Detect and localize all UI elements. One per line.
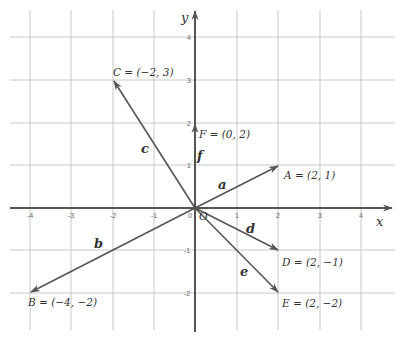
svg-text:-1: -1 [151, 212, 157, 219]
point-A-label: A = (2, 1) [283, 169, 335, 181]
svg-text:2: 2 [187, 120, 191, 127]
coordinate-plane: x y -4 -3 -2 -1 0 1 2 3 4 4 3 2 1 -1 -2 … [0, 0, 406, 343]
svg-text:3: 3 [187, 77, 191, 84]
point-C-label: C = (−2, 3) [113, 66, 174, 78]
svg-text:3: 3 [318, 212, 322, 219]
svg-text:0: 0 [188, 212, 192, 219]
origin-label: O [199, 210, 208, 222]
grid [10, 10, 395, 330]
point-D-label: D = (2, −1) [281, 256, 343, 268]
svg-text:2: 2 [276, 212, 280, 219]
svg-text:4: 4 [359, 212, 363, 219]
vector-c-label: c [141, 141, 149, 156]
point-F-label: F = (0, 2) [198, 128, 250, 140]
svg-text:-3: -3 [68, 212, 74, 219]
point-E-label: E = (2, −2) [281, 297, 342, 309]
vector-e-label: e [240, 264, 248, 279]
svg-text:4: 4 [187, 34, 191, 41]
vector-f-label: f [196, 148, 205, 163]
vector-b-label: b [94, 236, 103, 251]
y-axis-label: y [180, 10, 189, 25]
svg-text:1: 1 [235, 212, 239, 219]
svg-text:1: 1 [187, 162, 191, 169]
point-B-label: B = (−4, −2) [27, 296, 97, 308]
svg-text:-4: -4 [27, 212, 33, 219]
svg-text:-2: -2 [110, 212, 116, 219]
vector-d-label: d [246, 221, 255, 236]
x-axis-label: x [376, 214, 384, 229]
vector-a-label: a [218, 177, 226, 192]
svg-text:-2: -2 [184, 290, 190, 297]
svg-text:-1: -1 [184, 247, 190, 254]
